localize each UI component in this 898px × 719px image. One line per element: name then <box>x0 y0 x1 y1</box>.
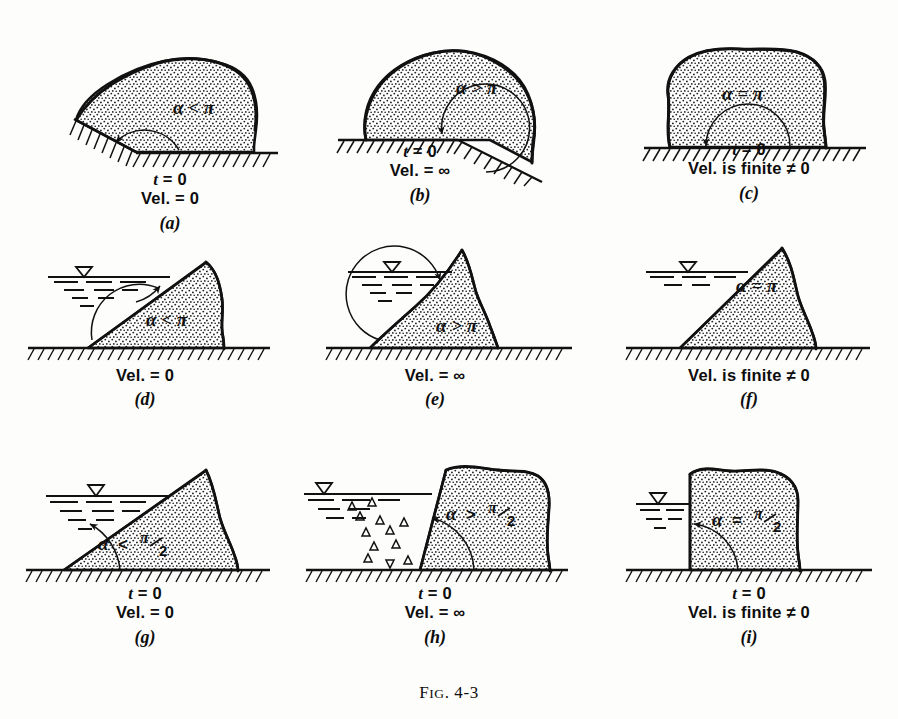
panel-i-letter: (i) <box>600 627 898 647</box>
panel-e-velocity: Vel. = ∞ <box>300 366 570 384</box>
svg-text:>: > <box>466 505 476 524</box>
ground-hatch <box>626 349 862 360</box>
angle-label-a: α < π <box>173 97 215 118</box>
panel-g-captions: t = 0 Vel. = 0 (g) <box>20 584 270 647</box>
panel-c-velocity: Vel. is finite ≠ 0 <box>600 159 898 177</box>
svg-text:<: < <box>118 535 128 554</box>
panel-g-diagram: α < π 2 <box>20 448 290 588</box>
angle-label-b: α > π <box>456 77 498 98</box>
soil-mass-outline <box>420 467 550 570</box>
panel-e-letter: (e) <box>300 389 570 409</box>
panel-a-velocity: Vel. = 0 <box>40 189 300 207</box>
ground-hatch <box>306 571 562 582</box>
panel-i-time: t = 0 <box>600 584 898 603</box>
ground-hatch <box>26 571 262 582</box>
panel-b-letter: (b) <box>300 185 540 205</box>
figure-4-3: α < π t = 0 Vel. = 0 (a) <box>0 0 898 719</box>
panel-e-diagram: α > π <box>320 236 590 371</box>
panel-g-velocity: Vel. = 0 <box>20 603 270 621</box>
soil-mass-outline <box>690 469 800 570</box>
panel-c-letter: (c) <box>600 183 898 203</box>
panel-c-captions: t = 0 Vel. is finite ≠ 0 (c) <box>600 140 898 203</box>
ground-hatch <box>133 154 270 167</box>
panel-c-time: t = 0 <box>600 140 898 159</box>
figure-caption: FIG. 4-3 <box>0 683 898 703</box>
panel-i-velocity: Vel. is finite ≠ 0 <box>600 603 898 621</box>
panel-f-velocity: Vel. is finite ≠ 0 <box>600 366 898 384</box>
panel-g-letter: (g) <box>20 627 270 647</box>
angle-label-f: α = π <box>736 275 778 296</box>
soil-mass-outline <box>76 59 257 152</box>
panel-d-captions: Vel. = 0 (d) <box>20 366 270 410</box>
svg-text:π: π <box>488 499 498 516</box>
svg-text:=: = <box>732 511 742 530</box>
panel-a-diagram: α < π <box>40 22 300 172</box>
panel-b-captions: t = 0 Vel. = ∞ (b) <box>300 142 540 205</box>
svg-text:2: 2 <box>159 542 167 559</box>
figure-caption-number: . 4-3 <box>445 683 479 702</box>
ground-hatch <box>626 571 862 582</box>
panel-d-velocity: Vel. = 0 <box>20 366 270 384</box>
figure-caption-text: F <box>419 683 429 702</box>
panel-h-diagram: α > π 2 <box>300 448 580 588</box>
water-table-symbol <box>636 493 690 528</box>
panel-h-velocity: Vel. = ∞ <box>300 603 570 621</box>
water-table-symbol <box>646 262 748 285</box>
panel-b-time: t = 0 <box>300 142 540 161</box>
svg-text:α: α <box>712 509 723 530</box>
svg-text:α: α <box>98 533 109 554</box>
panel-g-time: t = 0 <box>20 584 270 603</box>
angle-label-d: α < π <box>146 309 188 330</box>
svg-text:α: α <box>446 503 457 524</box>
ground-hatch <box>28 349 264 360</box>
panel-a-letter: (a) <box>40 213 300 233</box>
soil-mass-outline <box>680 248 816 348</box>
panel-e-captions: Vel. = ∞ (e) <box>300 366 570 410</box>
water-table-symbol <box>304 483 432 518</box>
panel-f-diagram: α = π <box>620 236 890 371</box>
panel-d-diagram: α < π <box>20 240 290 370</box>
panel-b-velocity: Vel. = ∞ <box>300 161 540 179</box>
panel-f-letter: (f) <box>600 389 898 409</box>
panel-f-captions: Vel. is finite ≠ 0 (f) <box>600 366 898 410</box>
angle-label-c: α = π <box>722 83 764 104</box>
panel-h-letter: (h) <box>300 627 570 647</box>
angle-label-e: α > π <box>436 315 478 336</box>
panel-h-time: t = 0 <box>300 584 570 603</box>
panel-a-time: t = 0 <box>40 170 300 189</box>
panel-i-captions: t = 0 Vel. is finite ≠ 0 (i) <box>600 584 898 647</box>
svg-text:2: 2 <box>773 518 781 535</box>
panel-a-captions: t = 0 Vel. = 0 (a) <box>40 170 300 233</box>
ground-hatch <box>326 349 562 360</box>
panel-i-diagram: α = π 2 <box>620 448 890 588</box>
panel-d-letter: (d) <box>20 389 270 409</box>
panel-h-captions: t = 0 Vel. = ∞ (h) <box>300 584 570 647</box>
svg-text:2: 2 <box>507 512 515 529</box>
svg-text:π: π <box>140 529 150 546</box>
soil-mass-outline <box>88 262 224 348</box>
svg-text:π: π <box>754 505 764 522</box>
figure-caption-smallcaps: IG <box>429 686 444 701</box>
